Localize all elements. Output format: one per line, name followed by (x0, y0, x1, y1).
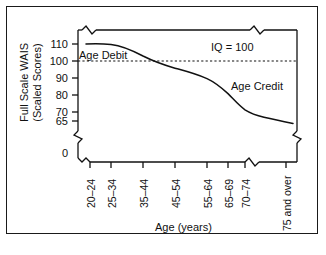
x-tick-label-35-44: 35–44 (139, 179, 150, 208)
caption-strip (0, 236, 326, 255)
x-tick-label-65-69: 65–69 (224, 179, 235, 208)
x-tick-label-55-64: 55–64 (203, 179, 214, 208)
y-tick-label-100: 100 (44, 56, 68, 67)
annotation-age-credit: Age Credit (231, 81, 283, 92)
y-axis-title-line2: (Scaled Scores) (32, 30, 43, 135)
y-axis-title-line1: Full Scale WAIS (19, 30, 30, 135)
top-axis (78, 26, 297, 34)
x-axis-title: Age (years) (155, 222, 212, 233)
annotation-iq-100: IQ = 100 (211, 42, 254, 53)
figure-container: 110 100 90 80 70 65 0 20–24 25–34 35–44 … (0, 0, 326, 255)
right-axis (293, 30, 301, 162)
x-tick-label-45-54: 45–54 (171, 179, 182, 208)
y-tick-label-0: 0 (44, 148, 68, 159)
x-tick-label-75-and-over: 75 and over (282, 176, 293, 231)
annotation-age-debit: Age Debit (79, 50, 127, 61)
x-tick-label-20-24: 20–24 (86, 179, 97, 208)
x-tick-label-70-74: 70–74 (241, 179, 252, 208)
y-tick-marks (72, 44, 78, 121)
x-tick-label-25-34: 25–34 (107, 179, 118, 208)
y-tick-label-110: 110 (44, 39, 68, 50)
y-tick-label-80: 80 (44, 90, 68, 101)
y-tick-label-90: 90 (44, 73, 68, 84)
y-tick-label-65: 65 (44, 116, 68, 127)
